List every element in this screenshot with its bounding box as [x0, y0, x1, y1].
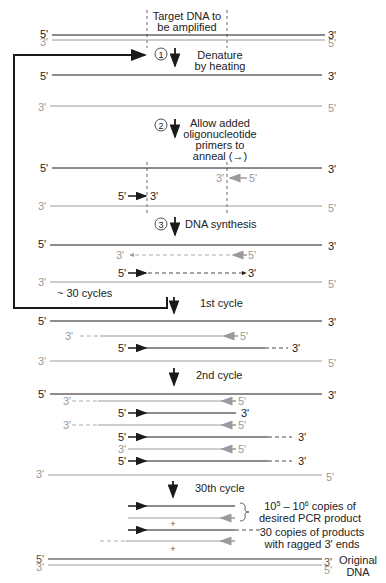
svg-text:5': 5'	[248, 249, 256, 261]
svg-text:5': 5'	[118, 431, 126, 443]
svg-text:5': 5'	[118, 267, 126, 279]
svg-text:3': 3'	[328, 163, 336, 175]
svg-text:5': 5'	[328, 278, 336, 290]
svg-text:5': 5'	[328, 202, 336, 214]
svg-text:3': 3'	[38, 355, 46, 367]
svg-text:5': 5'	[238, 443, 246, 455]
svg-text:3': 3'	[328, 240, 336, 252]
svg-text:5': 5'	[326, 471, 334, 483]
svg-text:3': 3'	[65, 330, 73, 342]
svg-text:3': 3'	[40, 36, 48, 48]
svg-text:5': 5'	[118, 190, 126, 202]
svg-text:+: +	[170, 544, 175, 554]
svg-text:5': 5'	[328, 357, 336, 369]
step-2: 2 Allow added oligonucleotide primers to…	[155, 117, 257, 162]
second-cycle-products: 5' 3' 3' 5' 5' 3' 3' 5' 5' 3' 3' 5' 5' 3…	[36, 388, 336, 483]
svg-text:3': 3'	[298, 431, 306, 443]
ragged-label-1: 30 copies of products	[260, 526, 365, 538]
original-label-2: DNA	[346, 566, 370, 578]
svg-text:5': 5'	[324, 564, 332, 576]
svg-text:5': 5'	[240, 330, 248, 342]
svg-text:5': 5'	[38, 388, 46, 400]
desired-label-1: 105 – 106 copies of	[264, 500, 357, 512]
svg-text:5': 5'	[38, 315, 46, 327]
svg-text:3': 3'	[248, 267, 256, 279]
step-1: 1 Denature by heating	[155, 48, 245, 72]
svg-text:3': 3'	[328, 389, 336, 401]
svg-text:3': 3'	[63, 395, 71, 407]
target-dna-region: Target DNA to be amplified	[147, 10, 227, 48]
svg-text:3': 3'	[118, 443, 126, 455]
svg-text:3': 3'	[36, 468, 44, 480]
svg-text:5': 5'	[328, 37, 336, 49]
svg-text:5': 5'	[238, 395, 246, 407]
svg-text:30th cycle: 30th cycle	[195, 482, 245, 494]
ragged-label-2: with ragged 3' ends	[263, 538, 360, 550]
svg-text:5': 5'	[40, 70, 48, 82]
thirtieth-cycle-products: + + 105 – 106 copies of desired PCR prod…	[100, 500, 365, 554]
svg-text:+: +	[170, 519, 175, 529]
svg-text:3': 3'	[36, 561, 44, 573]
thirtieth-cycle-arrow: 30th cycle	[173, 481, 245, 497]
svg-text:3': 3'	[328, 70, 336, 82]
first-cycle-arrow: 1st cycle	[174, 297, 243, 313]
original-dna: 5' 3' 3' 5' Original DNA	[36, 553, 377, 578]
cycle-loop: ~ 30 cycles	[14, 55, 167, 308]
svg-text:3': 3'	[38, 276, 46, 288]
svg-text:3': 3'	[38, 101, 46, 113]
denatured-strands: 5' 3' 3' 5'	[38, 70, 336, 114]
svg-text:3': 3'	[328, 316, 336, 328]
target-label-2: be amplified	[157, 21, 216, 33]
svg-text:by heating: by heating	[195, 60, 246, 72]
svg-text:3': 3'	[150, 190, 158, 202]
svg-text:5': 5'	[38, 238, 46, 250]
svg-text:3': 3'	[292, 342, 300, 354]
svg-text:2: 2	[158, 121, 163, 131]
svg-text:5': 5'	[118, 407, 126, 419]
svg-text:3': 3'	[298, 455, 306, 467]
svg-text:5': 5'	[118, 455, 126, 467]
svg-text:DNA synthesis: DNA synthesis	[185, 218, 257, 230]
pcr-diagram: Target DNA to be amplified 5' 3' 3' 5' ~…	[0, 0, 386, 583]
svg-text:3': 3'	[241, 407, 249, 419]
original-label-1: Original	[339, 554, 377, 566]
loop-label: ~ 30 cycles	[57, 287, 113, 299]
svg-text:5': 5'	[238, 419, 246, 431]
second-cycle-arrow: 2nd cycle	[174, 368, 242, 385]
step-3: 3 DNA synthesis	[155, 217, 257, 235]
svg-text:3': 3'	[38, 200, 46, 212]
svg-text:5': 5'	[40, 162, 48, 174]
annealed-primers: 5' 3' 3' 5' 5' 3' 3' 5'	[38, 162, 336, 215]
svg-text:3': 3'	[63, 419, 71, 431]
svg-text:3: 3	[158, 220, 163, 230]
svg-text:5': 5'	[118, 342, 126, 354]
svg-text:1: 1	[158, 50, 163, 60]
svg-text:2nd cycle: 2nd cycle	[196, 369, 242, 381]
desired-label-2: desired PCR product	[259, 512, 361, 524]
first-cycle-products: 5' 3' 3' 5' 5' 3' 3' 5'	[38, 315, 336, 369]
svg-text:5': 5'	[249, 172, 257, 184]
svg-text:anneal (→): anneal (→)	[193, 150, 247, 162]
svg-text:3': 3'	[216, 172, 224, 184]
svg-text:1st cycle: 1st cycle	[200, 297, 243, 309]
synthesis-strands: 5' 3' 3' 5' 5' 3' 3' 5'	[38, 238, 336, 290]
svg-text:5': 5'	[328, 102, 336, 114]
svg-text:3': 3'	[116, 249, 124, 261]
